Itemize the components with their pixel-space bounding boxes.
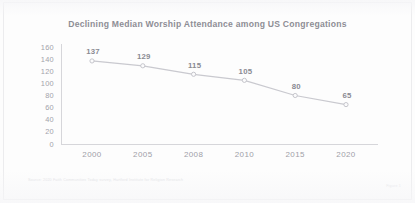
source-note: Source: 2020 Faith Communities Today sur… xyxy=(28,178,183,182)
y-tick-label: 120 xyxy=(41,67,54,76)
data-point-group[interactable] xyxy=(90,59,348,107)
data-point[interactable] xyxy=(242,78,246,82)
line-chart-plot: 160140120100806040200 200020052008201020… xyxy=(0,0,415,203)
y-tick-label: 100 xyxy=(41,79,54,88)
data-point-label: 137 xyxy=(86,47,100,56)
data-point[interactable] xyxy=(90,59,94,63)
y-tick-label: 60 xyxy=(45,103,54,112)
data-point-label: 65 xyxy=(342,91,352,100)
y-tick-label: 140 xyxy=(41,55,54,64)
x-tick-label: 2000 xyxy=(82,150,102,159)
data-point-label: 115 xyxy=(188,61,202,70)
x-tick-label: 2020 xyxy=(336,150,356,159)
y-tick-label: 160 xyxy=(41,43,54,52)
y-axis-tick-group: 160140120100806040200 xyxy=(41,43,54,149)
data-point-label: 80 xyxy=(292,82,302,91)
data-point-label: 105 xyxy=(239,67,253,76)
data-point[interactable] xyxy=(192,72,196,76)
y-tick-label: 80 xyxy=(45,91,54,100)
y-tick-label: 40 xyxy=(45,115,54,124)
x-tick-label: 2005 xyxy=(133,150,153,159)
data-point[interactable] xyxy=(141,64,145,68)
y-tick-label: 20 xyxy=(45,127,54,136)
x-axis-tick-group: 200020052008201020152020 xyxy=(82,150,356,159)
data-point[interactable] xyxy=(344,102,348,106)
y-tick-label: 0 xyxy=(50,140,54,149)
data-point[interactable] xyxy=(293,93,297,97)
x-tick-label: 2008 xyxy=(184,150,204,159)
data-label-group: 1371291151058065 xyxy=(86,47,352,100)
data-point-label: 129 xyxy=(137,52,151,61)
series-line-median-attendance xyxy=(92,61,346,105)
slide-canvas: Declining Median Worship Attendance amon… xyxy=(0,0,415,203)
x-tick-label: 2015 xyxy=(285,150,305,159)
x-tick-label: 2010 xyxy=(235,150,255,159)
figure-caption: Figure 1 xyxy=(386,184,401,188)
axis-group xyxy=(61,44,378,144)
